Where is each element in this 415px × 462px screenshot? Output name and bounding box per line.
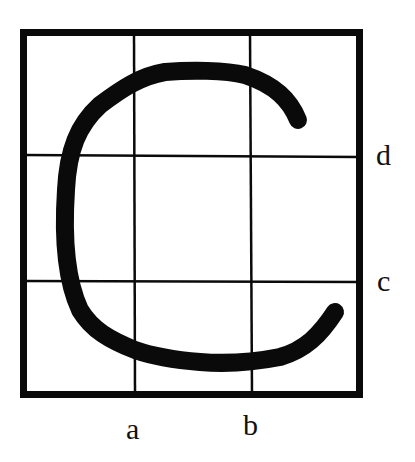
letter-c-stroke (65, 71, 335, 363)
label-c: c (377, 266, 390, 296)
grid-diagram (0, 0, 415, 462)
label-a: a (126, 414, 139, 444)
label-b: b (243, 410, 258, 440)
label-d: d (376, 140, 391, 170)
